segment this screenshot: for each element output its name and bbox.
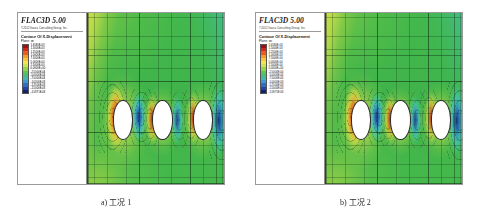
colorbar-ticks-b: 1.6580E-031.5000E-031.2500E-031.0000E-03… bbox=[269, 44, 284, 94]
tunnel-a-2 bbox=[152, 100, 172, 140]
mesh-grid-coarse-b bbox=[326, 13, 462, 184]
colorbar-ticks-a: 1.6580E-031.5000E-031.2500E-031.0000E-03… bbox=[31, 44, 46, 94]
legend-panel-a: FLAC3D 5.00 ©2012 Itasca Consulting Grou… bbox=[18, 13, 87, 184]
software-title-a: FLAC3D 5.00 bbox=[21, 16, 84, 25]
divider-b bbox=[259, 31, 321, 32]
contour-plot-a bbox=[87, 13, 224, 184]
tunnel-a-1 bbox=[113, 100, 133, 140]
legend-panel-b: FLAC3D 5.00 ©2012 Itasca Consulting Grou… bbox=[256, 13, 325, 184]
contour-plot-b bbox=[325, 13, 462, 184]
figure-panel-a: FLAC3D 5.00 ©2012 Itasca Consulting Grou… bbox=[17, 12, 225, 185]
contour-title-a: Contour Of X-Displacement bbox=[21, 34, 84, 39]
software-title-b: FLAC3D 5.00 bbox=[259, 16, 322, 25]
colorbar-a bbox=[22, 44, 29, 94]
color-scale-a: 1.6580E-031.5000E-031.2500E-031.0000E-03… bbox=[22, 44, 84, 94]
divider-a bbox=[21, 31, 83, 32]
color-scale-b: 1.6580E-031.5000E-031.2500E-031.0000E-03… bbox=[260, 44, 322, 94]
colorbar-swatch bbox=[261, 90, 266, 93]
copyright-text-a: ©2012 Itasca Consulting Group, Inc. bbox=[21, 26, 84, 30]
caption-panel-a: a) 工况 1 bbox=[101, 196, 131, 207]
colorbar-b bbox=[260, 44, 267, 94]
caption-panel-b: b) 工况 2 bbox=[340, 196, 371, 207]
tunnel-b-1 bbox=[351, 100, 371, 140]
figure-panel-b: FLAC3D 5.00 ©2012 Itasca Consulting Grou… bbox=[255, 12, 463, 185]
contour-title-b: Contour Of X-Displacement bbox=[259, 34, 322, 39]
colorbar-tick-label: -1.5871E-03 bbox=[31, 91, 46, 94]
tunnel-b-2 bbox=[390, 100, 410, 140]
copyright-text-b: ©2012 Itasca Consulting Group, Inc. bbox=[259, 26, 322, 30]
figure-root: FLAC3D 5.00 ©2012 Itasca Consulting Grou… bbox=[0, 0, 482, 221]
mesh-grid-coarse-a bbox=[88, 13, 224, 184]
colorbar-swatch bbox=[23, 90, 28, 93]
colorbar-tick-label: -1.5871E-03 bbox=[269, 91, 284, 94]
